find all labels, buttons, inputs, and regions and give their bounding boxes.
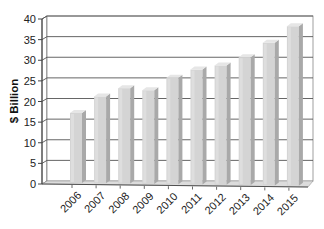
x-tick-label: 2007	[82, 189, 108, 215]
bar-highlight	[288, 27, 291, 184]
bar-2011	[191, 67, 207, 185]
x-tick-label: 2010	[154, 190, 180, 216]
bar-highlight	[192, 71, 195, 184]
y-tick-label: 30	[24, 54, 36, 66]
bar-highlight	[119, 89, 122, 182]
bar-2010	[166, 75, 182, 184]
bar-2008	[118, 85, 134, 183]
bar-side-face	[203, 67, 207, 185]
x-tick-label: 2014	[250, 191, 276, 217]
bar-2013	[239, 54, 255, 185]
y-tick-label: 40	[24, 13, 36, 25]
y-tick-label: 10	[24, 137, 36, 149]
bar-2015	[287, 23, 303, 185]
bar-highlight	[167, 79, 170, 183]
bar-highlight	[240, 58, 243, 184]
y-tick-label: 35	[24, 34, 36, 46]
bar-side-face	[251, 54, 255, 185]
bar-2012	[215, 62, 231, 184]
y-tick-label: 25	[24, 75, 36, 87]
bar-side-face	[227, 62, 231, 184]
bar-highlight	[71, 114, 74, 182]
y-tick-label: 20	[24, 96, 36, 108]
bar-side-face	[275, 40, 279, 186]
y-axis-title: $ Billion	[8, 79, 20, 124]
bar-2014	[263, 40, 279, 186]
y-tick-label: 15	[24, 116, 36, 128]
bar-side-face	[82, 110, 86, 183]
bar-highlight	[216, 66, 219, 183]
y-tick-label: 5	[30, 157, 36, 169]
y-axis: 0510152025303540	[24, 13, 42, 190]
bar-highlight	[95, 97, 98, 182]
y-tick-label: 0	[30, 178, 36, 190]
bar-side-face	[154, 87, 158, 184]
x-tick-label: 2006	[58, 189, 84, 215]
bar-highlight	[264, 44, 267, 185]
bar-highlight	[143, 91, 146, 183]
x-axis: 2006200720082009201020112012201320142015	[42, 184, 308, 217]
x-tick-label: 2008	[106, 190, 132, 216]
x-tick-label: 2012	[202, 191, 228, 217]
bar-side-face	[106, 93, 110, 183]
bar-2009	[142, 87, 158, 184]
bar-2006	[70, 110, 86, 183]
x-tick-label: 2015	[275, 192, 301, 218]
bar-chart: 0510152025303540 20062007200820092010201…	[0, 0, 324, 229]
x-tick-label: 2009	[130, 190, 156, 216]
x-tick-label: 2011	[179, 190, 204, 215]
bar-side-face	[299, 23, 303, 185]
bar-side-face	[130, 85, 134, 183]
bar-2007	[94, 93, 110, 183]
bar-side-face	[178, 75, 182, 184]
x-tick-label: 2013	[226, 191, 252, 217]
